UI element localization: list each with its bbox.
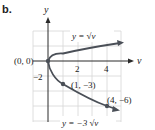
annotation-1-neg3: (1, −3): [71, 80, 96, 90]
point-origin: [46, 59, 50, 63]
y-axis-label: y: [43, 4, 49, 15]
x-axis-label: v: [137, 55, 142, 66]
x-axis-arrow-icon: [128, 59, 134, 64]
point-1-neg3: [61, 82, 65, 86]
annotation-4-neg6: (4, −6): [107, 95, 132, 105]
panel-label: b.: [2, 3, 12, 15]
y-axis-arrow-icon: [46, 17, 51, 23]
chart: b. y v 2 4 −2 (0, 0) (1, −3) (4, −6) y =…: [0, 0, 155, 130]
x-tick-4: 4: [104, 64, 109, 74]
label-curve-neg3sqrt: y = −3 √v: [61, 118, 98, 128]
curve-sqrt-arrow-icon: [117, 40, 124, 46]
y-tick-neg2: −2: [33, 72, 43, 82]
label-curve-sqrt: y = √v: [71, 31, 96, 41]
curve-neg3sqrt-arrow-icon: [112, 106, 120, 112]
x-tick-2: 2: [75, 64, 80, 74]
annotation-origin: (0, 0): [14, 56, 34, 66]
